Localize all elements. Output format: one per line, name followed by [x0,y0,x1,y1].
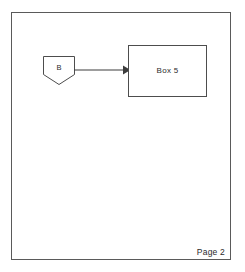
diagram-canvas: Page 2 B Box 5 [0,0,245,272]
process-box-label: Box 5 [157,67,179,75]
offpage-connector-outline [43,56,75,85]
connector-arrow[interactable] [73,62,131,78]
process-box[interactable]: Box 5 [128,45,207,97]
offpage-connector-shape[interactable]: B [43,56,75,85]
page-number-footer: Page 2 [197,248,225,257]
arrow-line-and-head [73,62,131,78]
